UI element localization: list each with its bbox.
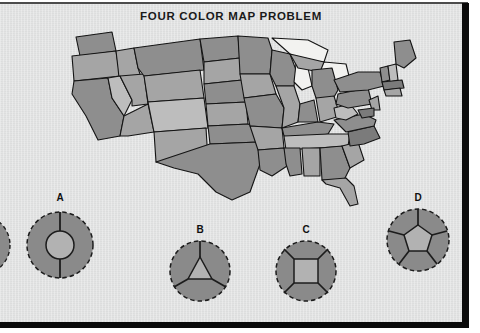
page-right-gutter: [469, 0, 480, 333]
diagram-d-label: D: [383, 192, 453, 203]
diagram-a-label: A: [22, 192, 98, 203]
diagram-b-label: B: [166, 224, 234, 235]
diagram-c: C: [272, 224, 340, 306]
top-rule: [0, 2, 468, 4]
diagram-d: D: [383, 192, 453, 276]
page-title: FOUR COLOR MAP PROBLEM: [0, 10, 462, 22]
diagram-b: B: [166, 224, 234, 306]
united-states-map: [28, 24, 428, 209]
page-right-border: [462, 3, 469, 328]
diagram-partial-left: [0, 213, 12, 277]
page-bottom-gutter: [0, 328, 480, 333]
diagram-c-label: C: [272, 224, 340, 235]
diagram-a: A: [22, 192, 98, 284]
illustration-page: FOUR COLOR MAP PROBLEM: [0, 0, 480, 333]
